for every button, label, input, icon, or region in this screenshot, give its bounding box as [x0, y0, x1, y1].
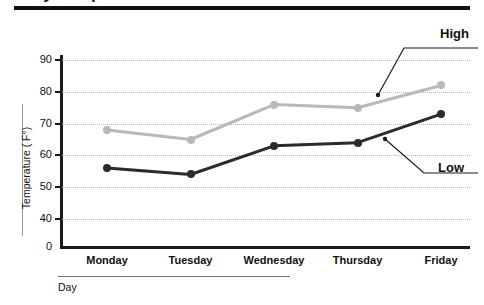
data-point-high	[187, 136, 195, 144]
chart-container: Daily Temperatures 9080706050400 Tempera…	[0, 0, 484, 305]
chart-title-clipped: Daily Temperatures	[0, 0, 484, 4]
data-point-low	[187, 170, 195, 178]
y-tick-label: 80	[40, 85, 52, 97]
y-tick-mark	[55, 218, 62, 220]
data-point-high	[270, 101, 278, 109]
x-axis-title-rule	[58, 276, 290, 277]
y-tick-mark	[55, 59, 62, 61]
x-axis-title: Day	[58, 281, 77, 293]
data-point-low	[270, 142, 278, 150]
series-lines-group	[62, 57, 470, 247]
plot-area	[62, 57, 470, 247]
x-tick-label: Wednesday	[244, 254, 305, 266]
y-axis-title-wrap: Temperature ( F°)	[8, 104, 26, 244]
y-tick-label: 90	[40, 53, 52, 65]
y-tick-label: 60	[40, 148, 52, 160]
y-tick-mark	[55, 91, 62, 93]
annotation-low-label: Low	[438, 160, 464, 175]
annotation-high-label: High	[440, 26, 469, 41]
x-tick-label: Tuesday	[169, 254, 213, 266]
title-underline-rule	[14, 6, 470, 10]
x-tick-label: Friday	[424, 254, 457, 266]
y-tick-mark	[55, 154, 62, 156]
x-tick-label: Monday	[86, 254, 128, 266]
y-tick-label: 40	[40, 212, 52, 224]
data-point-high	[354, 104, 362, 112]
data-point-high	[103, 126, 111, 134]
data-point-low	[103, 164, 111, 172]
data-point-low	[437, 110, 445, 118]
y-tick-label: 70	[40, 117, 52, 129]
data-point-high	[437, 81, 445, 89]
y-tick-label: 0	[46, 240, 52, 252]
x-axis-tick-labels: MondayTuesdayWednesdayThursdayFriday	[62, 254, 470, 272]
y-tick-mark	[55, 186, 62, 188]
y-tick-label: 50	[40, 180, 52, 192]
y-tick-mark	[55, 123, 62, 125]
x-tick-label: Thursday	[333, 254, 383, 266]
y-axis-title: Temperature ( F°)	[20, 98, 32, 238]
data-point-low	[354, 139, 362, 147]
